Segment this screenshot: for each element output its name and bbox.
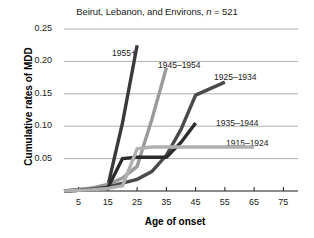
series-line-0: [64, 45, 137, 191]
series-line-2: [64, 82, 225, 191]
plot-area: [0, 0, 314, 238]
chart-container: Beirut, Lebanon, and Environs, n = 521 C…: [0, 0, 314, 238]
series-paths: [64, 45, 254, 191]
gridlines: [64, 29, 298, 159]
series-line-4: [64, 147, 254, 191]
